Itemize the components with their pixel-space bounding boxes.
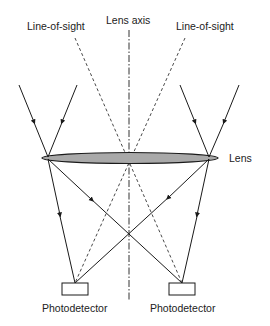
ray-right-outer-in	[180, 85, 195, 122]
ray-right-cross	[168, 159, 209, 198]
photodetector-left-box	[62, 283, 88, 295]
photodetector-right-box	[169, 283, 195, 295]
ray-left-outer-in	[19, 85, 34, 122]
line-of-sight-right-label: Line-of-sight	[176, 20, 234, 32]
lens-shape	[42, 153, 218, 164]
ray-right-inner-in	[224, 85, 239, 122]
line-of-sight-left-label: Line-of-sight	[27, 20, 85, 32]
ray-left-inner-in	[62, 85, 77, 122]
lens-label: Lens	[229, 152, 252, 164]
photodetector-left-label: Photodetector	[42, 302, 107, 314]
lens-axis-label: Lens axis	[106, 14, 150, 26]
ray-left-cross	[48, 159, 92, 200]
ray-left-down	[48, 159, 60, 215]
ray-right-down	[197, 159, 209, 215]
photodetector-right-label: Photodetector	[150, 302, 215, 314]
